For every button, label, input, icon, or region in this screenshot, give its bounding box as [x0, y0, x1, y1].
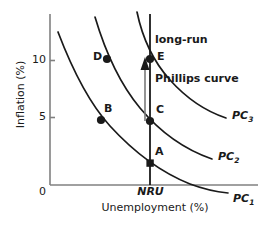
curve-label-pc3: PC3 — [232, 110, 253, 125]
data-point-a — [146, 159, 153, 166]
x-tick-label-nru: NRU — [130, 186, 171, 199]
data-point-c — [146, 117, 154, 125]
point-label-d: D — [93, 51, 102, 64]
long-run-label-line1: long-run — [155, 34, 239, 47]
curve-label-pc2-base: PC — [218, 150, 234, 163]
y-tick-label-5: 5 — [24, 111, 46, 124]
curve-label-pc3-base: PC — [232, 109, 248, 122]
point-label-e: E — [157, 51, 165, 64]
curve-label-pc3-sub: 3 — [248, 115, 253, 124]
origin-label: 0 — [24, 186, 46, 199]
point-label-c: C — [156, 104, 164, 117]
curve-label-pc2-sub: 2 — [234, 156, 239, 165]
x-axis-title: Unemployment (%) — [95, 202, 215, 215]
phillips-curve-figure: Inflation (%) 10 5 0 NRU Unemployment (%… — [0, 0, 270, 227]
data-point-b — [97, 116, 105, 124]
y-tick-label-10: 10 — [24, 54, 46, 67]
long-run-label-line2: Phillips curve — [155, 73, 239, 86]
curve-label-pc1: PC1 — [233, 193, 254, 208]
curve-label-pc1-sub: 1 — [249, 198, 254, 207]
long-run-phillips-curve-label: long-run Phillips curve — [155, 8, 239, 112]
curve-label-pc1-base: PC — [233, 192, 249, 205]
point-label-b: B — [104, 103, 112, 116]
data-point-e — [146, 55, 154, 63]
point-label-a: A — [155, 146, 164, 159]
curve-label-pc2: PC2 — [218, 151, 239, 166]
data-point-d — [103, 55, 111, 63]
